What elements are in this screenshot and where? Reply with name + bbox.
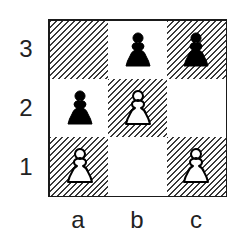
file-label-b: b — [125, 208, 149, 232]
square-b1 — [108, 137, 168, 196]
square-c2 — [167, 79, 227, 138]
rank-label-3: 3 — [16, 37, 36, 61]
white-pawn-icon — [119, 87, 157, 131]
file-label-a: a — [66, 208, 90, 232]
square-a3 — [50, 21, 110, 80]
white-pawn-icon — [177, 145, 215, 189]
file-label-c: c — [184, 208, 208, 232]
square-b3 — [108, 21, 168, 80]
rank-label-1: 1 — [16, 155, 36, 179]
chess-board — [48, 19, 227, 197]
rank-label-2: 2 — [16, 96, 36, 120]
black-pawn-icon — [177, 29, 215, 73]
square-b2 — [108, 79, 168, 138]
square-c3 — [167, 21, 227, 80]
square-a2 — [50, 79, 110, 138]
square-a1 — [50, 137, 110, 196]
black-pawn-icon — [61, 87, 99, 131]
square-c1 — [167, 137, 227, 196]
black-pawn-icon — [119, 29, 157, 73]
white-pawn-icon — [61, 145, 99, 189]
